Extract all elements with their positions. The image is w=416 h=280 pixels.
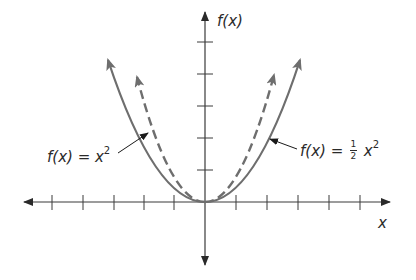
parabola-diagram: f(x) x f(x) = x2 f(x) = 12 x2: [0, 0, 416, 280]
left-label-pointer-arrow-icon: [118, 133, 148, 153]
left-function-label: f(x) = x2: [47, 148, 110, 165]
right-function-label: f(x) = 12 x2: [300, 141, 379, 162]
solid-parabola-left: [108, 60, 205, 202]
dashed-parabola-left: [137, 77, 205, 202]
left-function-exponent: 2: [104, 145, 110, 156]
left-function-text: f(x) = x: [47, 148, 104, 166]
right-function-exponent: 2: [373, 139, 379, 150]
fraction-numerator: 1: [351, 140, 357, 149]
right-label-pointer-arrow-icon: [270, 139, 297, 149]
right-function-text: f(x) =: [300, 142, 348, 160]
y-axis: [197, 12, 213, 265]
x-axis-label: x: [378, 216, 387, 231]
right-function-var: x: [364, 142, 373, 160]
y-axis-label: f(x): [217, 14, 243, 29]
fraction-one-half: 12: [350, 140, 357, 161]
fraction-denominator: 2: [351, 152, 357, 161]
solid-parabola-right: [205, 60, 300, 202]
